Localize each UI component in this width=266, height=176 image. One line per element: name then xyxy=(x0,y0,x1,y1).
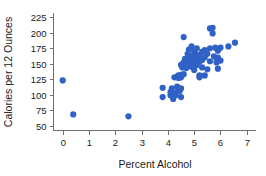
data-point xyxy=(178,94,184,100)
data-point xyxy=(210,30,216,36)
y-tick-label: 175 xyxy=(31,43,47,54)
data-point xyxy=(181,34,187,40)
data-point xyxy=(232,40,238,46)
data-point xyxy=(217,58,223,64)
data-point xyxy=(202,72,208,78)
y-axis-title: Calories per 12 Ounces xyxy=(2,17,14,127)
data-point-group xyxy=(60,25,238,120)
y-tick-label: 125 xyxy=(31,74,47,85)
data-point xyxy=(181,71,187,77)
x-tick-label: 1 xyxy=(87,137,92,148)
data-point xyxy=(215,66,221,72)
data-point xyxy=(160,85,166,91)
data-point xyxy=(204,51,210,57)
data-point xyxy=(196,74,202,80)
data-point xyxy=(207,45,213,51)
y-tick-label: 200 xyxy=(31,28,47,39)
y-tick-label: 150 xyxy=(31,59,47,70)
data-point xyxy=(160,94,166,100)
data-point xyxy=(210,25,216,31)
data-point xyxy=(204,66,210,72)
plot-area: 5075100125150175200225 01234567 Percent … xyxy=(0,0,266,176)
data-point xyxy=(217,45,223,51)
x-tick-label: 0 xyxy=(61,137,66,148)
x-tick-label: 5 xyxy=(192,137,197,148)
y-tick-label: 50 xyxy=(36,121,47,132)
x-tick-group: 01234567 xyxy=(61,131,250,148)
data-point xyxy=(207,58,213,64)
y-tick-label: 100 xyxy=(31,90,47,101)
data-point xyxy=(178,85,184,91)
x-tick-label: 4 xyxy=(166,137,171,148)
data-point xyxy=(125,113,131,119)
data-point xyxy=(194,45,200,51)
x-axis-title: Percent Alcohol xyxy=(119,158,192,170)
y-tick-label: 225 xyxy=(31,12,47,23)
data-point xyxy=(199,64,205,70)
x-tick-label: 2 xyxy=(113,137,118,148)
data-point xyxy=(70,111,76,117)
scatter-chart: 5075100125150175200225 01234567 Percent … xyxy=(0,0,266,176)
data-point xyxy=(225,43,231,49)
x-tick-label: 3 xyxy=(140,137,145,148)
y-tick-label: 75 xyxy=(36,105,47,116)
data-point xyxy=(60,77,66,83)
x-tick-label: 6 xyxy=(218,137,223,148)
y-axis: 5075100125150175200225 xyxy=(31,12,54,132)
x-axis: 01234567 xyxy=(54,131,257,148)
y-tick-group: 5075100125150175200225 xyxy=(31,12,54,132)
x-tick-label: 7 xyxy=(245,137,250,148)
